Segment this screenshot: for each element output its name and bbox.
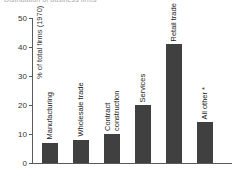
y-tick-mark — [29, 18, 33, 19]
plot-area: % of total firms (1970) 01020304050 Manu… — [32, 18, 230, 163]
bar — [166, 44, 182, 163]
bar — [42, 143, 58, 163]
y-tick-label: 20 — [18, 101, 27, 110]
y-tick-mark — [29, 163, 33, 164]
y-tick-mark — [29, 76, 33, 77]
bar — [197, 122, 213, 163]
bar-label: Manufacturing — [46, 92, 55, 140]
bar-label: Wholesale trade — [77, 83, 86, 137]
y-tick-label: 40 — [18, 43, 27, 52]
figure-title-clipped: Distribution of business firms — [4, 0, 184, 3]
bar-label: All other * — [201, 87, 210, 120]
y-tick-label: 50 — [18, 14, 27, 23]
y-axis-title: % of total firms (1970) — [34, 68, 45, 79]
chart-figure: Distribution of business firms % of tota… — [0, 0, 234, 180]
bar — [135, 105, 151, 163]
bar-label: Services — [139, 73, 148, 102]
y-tick-label: 30 — [18, 72, 27, 81]
y-tick-mark — [29, 47, 33, 48]
y-tick-mark — [29, 105, 33, 106]
bar-label: Retail trade — [170, 3, 179, 41]
bar — [104, 134, 120, 163]
y-tick-label: 10 — [18, 130, 27, 139]
bar-label: Contract construction — [104, 79, 121, 131]
bar — [73, 140, 89, 163]
y-axis-spine — [32, 18, 33, 163]
y-tick-label: 0 — [23, 159, 27, 168]
y-tick-mark — [29, 134, 33, 135]
x-axis-baseline — [32, 163, 232, 164]
